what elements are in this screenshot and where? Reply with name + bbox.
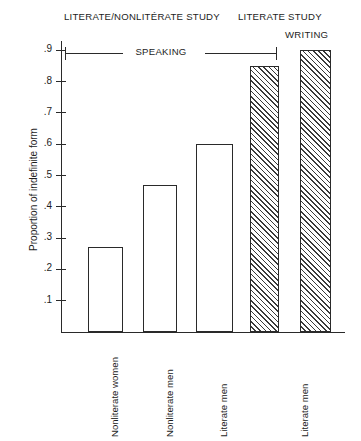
y-axis-tick-label: .8 [30, 75, 52, 86]
bar [300, 50, 331, 332]
y-axis-tick-label: .7 [30, 106, 52, 117]
y-axis-tick-label: .1 [30, 294, 52, 305]
y-axis-tick-label: .3 [30, 231, 52, 242]
y-axis-tick-label: .4 [30, 200, 52, 211]
y-axis-tick-label: .2 [30, 262, 52, 273]
y-axis-tick [56, 238, 66, 239]
bar-chart-figure: LITERATE/NONLITÉRATE STUDY LITERATE STUD… [0, 0, 361, 441]
group-title-literate-study: LITERATE STUDY [238, 11, 322, 22]
bar [143, 185, 177, 332]
category-label: Nonliterate women [109, 357, 120, 437]
y-axis-tick [56, 144, 66, 145]
bracket-right-rule [205, 53, 277, 54]
y-axis-tick [56, 300, 66, 301]
category-label: Literate men [299, 384, 310, 437]
speaking-annotation-label: SPEAKING [125, 46, 197, 57]
bracket-left-rule [65, 53, 123, 54]
y-axis-title: Proportion of indefinite form [28, 90, 39, 290]
y-axis-tick-label: .6 [30, 137, 52, 148]
y-axis-tick [56, 206, 66, 207]
category-label: Literate men [218, 384, 229, 437]
y-axis-tick [56, 81, 66, 82]
x-axis-line [61, 332, 345, 333]
speaking-span-bracket: SPEAKING [65, 46, 277, 60]
bar [250, 66, 279, 332]
bar [196, 144, 233, 332]
writing-annotation-label: WRITING [285, 29, 328, 40]
y-axis-line [61, 41, 62, 333]
y-axis-tick [56, 50, 66, 51]
y-axis-tick [56, 112, 66, 113]
category-label: Nonliterate men [164, 369, 175, 437]
y-axis-tick-label: .9 [30, 43, 52, 54]
group-title-literate-nonliterate: LITERATE/NONLITÉRATE STUDY [64, 11, 220, 22]
y-axis-tick-label: .5 [30, 169, 52, 180]
bar [88, 247, 123, 332]
y-axis-tick [56, 175, 66, 176]
y-axis-tick [56, 269, 66, 270]
